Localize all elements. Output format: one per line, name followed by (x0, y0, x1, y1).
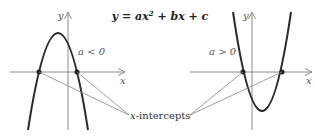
left-y-label: y (57, 10, 64, 21)
left-x-label: x (120, 75, 126, 86)
right-x-label: x (306, 75, 312, 86)
quadratic-diagram: y = ax2 + bx + c y x a < 0 y x a > 0 x-i… (0, 0, 315, 138)
right-condition-label: a > 0 (209, 46, 237, 57)
right-y-label: y (242, 10, 249, 21)
x-intercepts-label: x-intercepts (130, 110, 190, 121)
upward-parabola (233, 12, 291, 111)
left-condition-label: a < 0 (78, 46, 106, 57)
left-graph: y x a < 0 (10, 10, 126, 130)
formula-title: y = ax2 + bx + c (111, 9, 209, 23)
right-graph: y x a > 0 (190, 10, 312, 130)
